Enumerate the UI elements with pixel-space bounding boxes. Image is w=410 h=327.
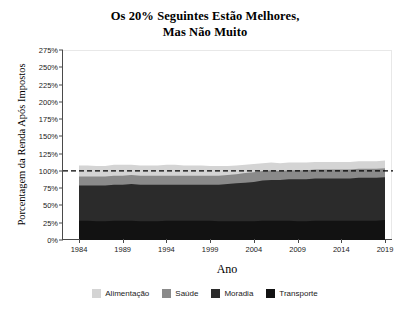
x-tick-mark <box>254 239 255 243</box>
reference-line-100-percent <box>63 50 393 240</box>
x-tick-mark <box>385 239 386 243</box>
plot-inner: 0%25%50%75%100%125%150%175%200%225%250%2… <box>63 50 392 239</box>
y-tick-mark <box>59 240 63 241</box>
x-tick-mark <box>166 239 167 243</box>
x-tick-mark <box>210 239 211 243</box>
legend-label: Alimentação <box>105 289 149 298</box>
legend-item-sade[interactable]: Saúde <box>162 289 198 298</box>
chart-title-line-1: Os 20% Seguintes Estão Melhores, <box>111 9 300 23</box>
y-tick-mark <box>59 50 63 51</box>
x-tick-mark <box>298 239 299 243</box>
x-tick-mark <box>123 239 124 243</box>
y-tick-mark <box>59 119 63 120</box>
legend-label: Saúde <box>175 289 198 298</box>
y-tick-mark <box>59 153 63 154</box>
legend-label: Moradia <box>224 289 253 298</box>
y-tick-mark <box>59 170 63 171</box>
chart-figure: Os 20% Seguintes Estão Melhores, Mas Não… <box>0 0 410 327</box>
y-tick-mark <box>59 67 63 68</box>
legend-item-transporte[interactable]: Transporte <box>266 289 317 298</box>
legend-label: Transporte <box>279 289 317 298</box>
x-axis-title: Ano <box>62 262 392 277</box>
legend-item-moradia[interactable]: Moradia <box>211 289 253 298</box>
y-tick-mark <box>59 188 63 189</box>
x-tick-mark <box>79 239 80 243</box>
y-axis-title: Porcentagem da Renda Após Impostos <box>13 40 29 248</box>
legend-swatch-icon <box>211 289 220 298</box>
legend-swatch-icon <box>92 289 101 298</box>
chart-title: Os 20% Seguintes Estão Melhores, Mas Não… <box>0 8 410 40</box>
legend-swatch-icon <box>266 289 275 298</box>
y-tick-mark <box>59 136 63 137</box>
y-tick-mark <box>59 222 63 223</box>
y-tick-mark <box>59 101 63 102</box>
y-tick-mark <box>59 205 63 206</box>
x-tick-mark <box>341 239 342 243</box>
legend-swatch-icon <box>162 289 171 298</box>
chart-legend: AlimentaçãoSaúdeMoradiaTransporte <box>0 289 410 298</box>
chart-title-line-2: Mas Não Muito <box>0 24 410 40</box>
y-tick-mark <box>59 84 63 85</box>
plot-area: 0%25%50%75%100%125%150%175%200%225%250%2… <box>62 50 392 240</box>
legend-item-alimentao[interactable]: Alimentação <box>92 289 149 298</box>
